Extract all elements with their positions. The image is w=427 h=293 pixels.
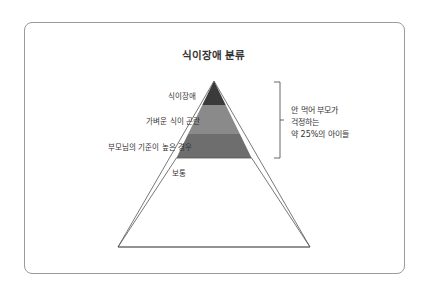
pyramid-diagram bbox=[0, 0, 427, 293]
bracket bbox=[274, 82, 284, 158]
level-label-normal: 보통 bbox=[172, 167, 186, 178]
bracket-note: 안 먹어 부모가 걱정하는 약 25%의 아이들 bbox=[291, 105, 349, 141]
bracket-note-line: 걱정하는 bbox=[291, 117, 349, 129]
level-label-eating-disorder: 식이장애 bbox=[168, 90, 196, 101]
level-label-high-parent-standard: 부모님의 기준이 높은 경우 bbox=[108, 141, 192, 152]
pyramid-tier-eating-disorder bbox=[202, 81, 225, 105]
pyramid-tier-normal bbox=[118, 158, 310, 247]
level-label-mild-difficulty: 가벼운 식이 곤란 bbox=[146, 115, 200, 126]
bracket-note-line: 안 먹어 부모가 bbox=[291, 105, 349, 117]
bracket-note-line: 약 25%의 아이들 bbox=[291, 129, 349, 141]
